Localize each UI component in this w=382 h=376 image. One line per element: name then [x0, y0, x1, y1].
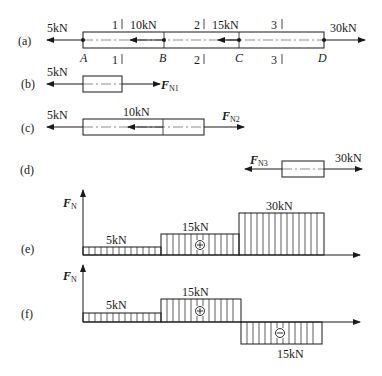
- panel-f-label: (f): [21, 307, 33, 321]
- svg-text:3: 3: [271, 53, 277, 67]
- force-label-5kn: 5kN: [47, 108, 68, 122]
- panel-c: (c) 5kN 10kN FN2: [21, 105, 244, 135]
- section-3: 3 3: [271, 18, 282, 67]
- force-label-30kn: 30kN: [335, 151, 362, 165]
- axis-label-fn: FN: [62, 269, 77, 284]
- panel-c-label: (c): [21, 121, 34, 135]
- svg-text:15kN: 15kN: [182, 220, 209, 234]
- panel-f: (f) FN 5kN 15kN: [21, 265, 360, 361]
- panel-b-label: (b): [21, 77, 35, 91]
- segment-cd: 15kN: [241, 322, 322, 361]
- internal-force-label-n2: FN2: [221, 109, 240, 124]
- panel-a-label: (a): [18, 34, 31, 48]
- minus-sign-icon: [276, 329, 285, 338]
- point-b-label: B: [159, 51, 167, 65]
- plus-sign-icon: [196, 241, 205, 250]
- axial-force-figure: (a) 5kN 10kN 15kN 30kN A B C D 1 1: [0, 0, 382, 376]
- segment-bc: 15kN: [161, 220, 239, 255]
- svg-text:2: 2: [194, 18, 200, 32]
- segment-cd: 30kN: [239, 199, 324, 255]
- svg-text:5kN: 5kN: [106, 298, 127, 312]
- point-a-dot: [81, 38, 85, 42]
- panel-e-label: (e): [21, 242, 34, 256]
- plus-sign-icon: [196, 307, 205, 316]
- section-2: 2 2: [194, 18, 204, 67]
- panel-d: (d) FN3 30kN: [20, 151, 362, 177]
- force-label-5kn: 5kN: [47, 65, 68, 79]
- svg-text:2: 2: [194, 53, 200, 67]
- force-label-15kn: 15kN: [212, 18, 239, 32]
- section-1: 1 1: [112, 18, 122, 67]
- svg-text:15kN: 15kN: [277, 347, 304, 361]
- panel-b: (b) 5kN FN1: [21, 65, 179, 93]
- panel-a: (a) 5kN 10kN 15kN 30kN A B C D 1 1: [18, 18, 365, 67]
- force-label-5kn: 5kN: [47, 21, 68, 35]
- point-c-label: C: [235, 51, 244, 65]
- panel-d-label: (d): [20, 163, 34, 177]
- point-d-label: D: [317, 51, 327, 65]
- svg-text:30kN: 30kN: [266, 199, 293, 213]
- svg-text:3: 3: [271, 18, 277, 32]
- segment-ab: 5kN: [83, 298, 161, 322]
- internal-force-label-n1: FN1: [160, 78, 179, 93]
- segment-bc: 15kN: [161, 285, 241, 322]
- segment-ab: 5kN: [83, 233, 161, 255]
- axis-label-fn: FN: [62, 196, 77, 211]
- svg-text:15kN: 15kN: [182, 285, 209, 299]
- force-label-30kn: 30kN: [330, 21, 357, 35]
- force-label-10kn: 10kN: [123, 105, 150, 119]
- panel-e: (e) FN 5kN 15kN: [21, 190, 360, 256]
- point-a-label: A: [79, 51, 88, 65]
- force-label-10kn: 10kN: [130, 18, 157, 32]
- point-d-dot: [322, 38, 326, 42]
- svg-text:1: 1: [112, 18, 118, 32]
- svg-text:5kN: 5kN: [106, 233, 127, 247]
- internal-force-label-n3: FN3: [249, 153, 268, 168]
- svg-text:1: 1: [112, 53, 118, 67]
